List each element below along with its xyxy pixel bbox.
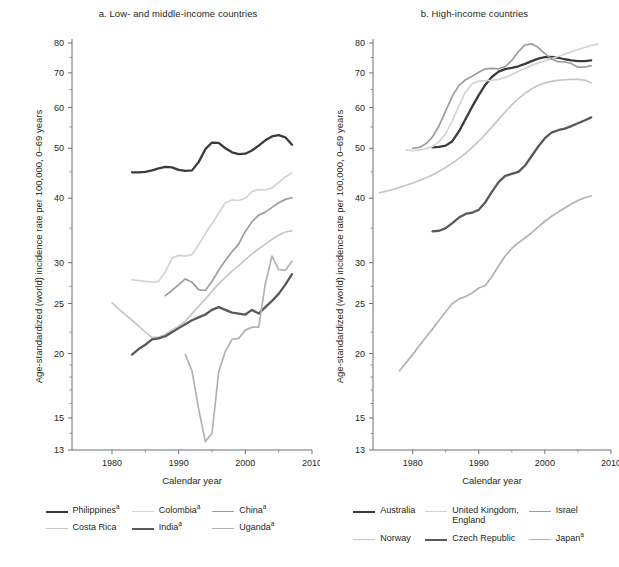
x-tick-label: 2010	[601, 458, 619, 468]
legend-swatch	[132, 511, 154, 512]
x-tick-label: 1990	[469, 458, 489, 468]
x-tick-label: 2000	[235, 458, 255, 468]
x-axis-title: Calendar year	[162, 475, 222, 486]
legend-label: Japana	[556, 533, 584, 543]
y-tick-label: 80	[54, 38, 64, 48]
legend-item[interactable]: Chinaa	[212, 505, 274, 515]
legend-swatch	[46, 511, 68, 513]
legend-footnote-marker: a	[263, 503, 267, 510]
y-tick-label: 30	[355, 258, 365, 268]
series-line	[165, 198, 292, 296]
y-tick-label: 40	[54, 193, 64, 203]
legend-label: Philippinesa	[73, 505, 120, 515]
legend-label: Australia	[380, 505, 415, 515]
legend-label: Indiaa	[159, 522, 182, 532]
legend-item[interactable]: Ugandaa	[212, 522, 274, 532]
y-tick-label: 13	[54, 445, 64, 455]
series-line	[399, 196, 591, 371]
legend-swatch	[529, 511, 551, 512]
y-tick-label: 30	[54, 258, 64, 268]
y-tick-label: 50	[355, 143, 365, 153]
y-tick-label: 13	[355, 445, 365, 455]
legend-swatch	[46, 528, 68, 529]
series-line	[132, 135, 292, 172]
legend-label: United Kingdom, England	[452, 505, 519, 526]
legend-swatch	[529, 539, 551, 540]
panel-b-legend: AustraliaUnited Kingdom, EnglandIsraelNo…	[318, 505, 619, 543]
legend-footnote-marker: a	[197, 503, 201, 510]
legend-label: Colombiaa	[159, 505, 201, 515]
y-tick-label: 25	[355, 299, 365, 309]
y-tick-label: 20	[355, 349, 365, 359]
legend-footnote-marker: a	[271, 520, 275, 527]
legend-swatch	[353, 539, 375, 540]
legend-swatch	[425, 511, 447, 512]
panel-low-middle-income: a. Low- and middle-income countries 1315…	[0, 0, 320, 495]
y-tick-label: 70	[54, 68, 64, 78]
legend-item[interactable]: Israel	[529, 505, 584, 515]
legend-label: Ugandaa	[239, 522, 274, 532]
y-tick-label: 40	[355, 193, 365, 203]
figure-root: a. Low- and middle-income countries 1315…	[0, 0, 619, 567]
legend-swatch	[212, 528, 234, 529]
x-tick-label: 1980	[403, 458, 423, 468]
series-line	[433, 57, 592, 148]
legend-item[interactable]: Costa Rica	[46, 522, 120, 532]
y-axis-title: Age-standardized (world) incidence rate …	[33, 109, 44, 383]
x-tick-label: 1980	[102, 458, 122, 468]
legend-label: Norway	[380, 533, 411, 543]
series-line	[132, 173, 292, 282]
legend-item[interactable]: Japana	[529, 533, 584, 543]
series-line	[185, 256, 292, 441]
y-tick-label: 70	[355, 68, 365, 78]
y-tick-label: 15	[355, 413, 365, 423]
legend-swatch	[353, 511, 375, 513]
x-axis-title: Calendar year	[462, 475, 522, 486]
y-tick-label: 20	[54, 349, 64, 359]
x-tick-label: 2000	[535, 458, 555, 468]
legend-footnote-marker: a	[178, 520, 182, 527]
legend-label: Israel	[556, 505, 578, 515]
x-tick-label: 1990	[169, 458, 189, 468]
legend-swatch	[212, 511, 234, 512]
legend-footnote-marker: a	[580, 531, 584, 538]
legend-item[interactable]: Indiaa	[132, 522, 201, 532]
y-axis-title: Age-standardized (world) incidence rate …	[334, 109, 345, 383]
legend-label: Costa Rica	[73, 522, 117, 532]
legend-item[interactable]: Australia	[353, 505, 415, 515]
y-tick-label: 60	[54, 103, 64, 113]
legend-item[interactable]: Philippinesa	[46, 505, 120, 515]
legend-item[interactable]: Colombiaa	[132, 505, 201, 515]
legend-item[interactable]: United Kingdom, England	[425, 505, 519, 526]
series-line	[380, 79, 592, 192]
y-tick-label: 50	[54, 143, 64, 153]
legend-item[interactable]: Czech Republic	[425, 533, 519, 543]
y-tick-label: 25	[54, 299, 64, 309]
y-tick-label: 15	[54, 413, 64, 423]
y-tick-label: 60	[355, 103, 365, 113]
panel-b-plot: 131520253040506070801980199020002010Cale…	[318, 0, 619, 495]
panel-high-income: b. High-income countries 131520253040506…	[318, 0, 619, 495]
legend-item[interactable]: Norway	[353, 533, 415, 543]
y-tick-label: 80	[355, 38, 365, 48]
panel-a-plot: 131520253040506070801980199020002010Cale…	[0, 0, 320, 495]
legend-label: Chinaa	[239, 505, 266, 515]
legend-label: Czech Republic	[452, 533, 515, 543]
legend-swatch	[425, 539, 447, 541]
panel-a-legend: PhilippinesaColombiaaChinaaCosta RicaInd…	[0, 505, 320, 533]
series-line	[132, 274, 292, 354]
legend-footnote-marker: a	[116, 503, 120, 510]
legend-swatch	[132, 528, 154, 530]
